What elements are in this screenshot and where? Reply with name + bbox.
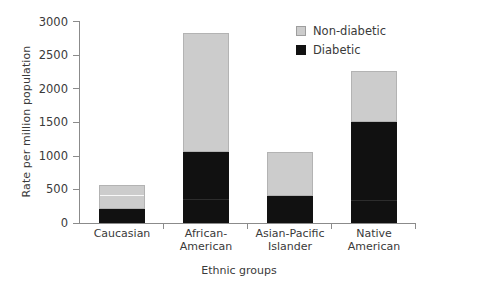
y-tick-label-2500: 2500	[39, 48, 68, 62]
legend-label-diabetic: Diabetic	[313, 43, 361, 57]
bar-segment-non-diabetic[interactable]	[351, 71, 397, 122]
legend-swatch-icon-non-diabetic	[296, 26, 306, 36]
y-tick-label-2000: 2000	[39, 82, 68, 96]
y-tick-label-3000: 3000	[39, 15, 68, 29]
legend-item-diabetic[interactable]: Diabetic	[296, 42, 386, 58]
label-line: Native American	[331, 228, 417, 253]
y-tick-label-1000: 1000	[39, 149, 68, 163]
bar-segment-diabetic[interactable]	[183, 152, 229, 223]
legend-swatch-icon-diabetic	[296, 45, 306, 55]
bar-segment-diabetic[interactable]	[99, 209, 145, 223]
bar-native-american[interactable]	[351, 71, 397, 223]
bar-asian-pacific-islander[interactable]	[267, 152, 313, 223]
bar-segment-non-diabetic[interactable]	[99, 185, 145, 209]
x-axis-title: Ethnic groups	[0, 264, 478, 277]
bar-african-american[interactable]	[183, 33, 229, 223]
bar-segment-non-diabetic[interactable]	[267, 152, 313, 197]
y-tick-label-500: 500	[46, 182, 68, 196]
legend-label-non-diabetic: Non-diabetic	[313, 24, 386, 38]
x-category-label-african-american: African-American	[163, 228, 249, 253]
y-axis-line	[79, 21, 80, 224]
label-line: Islander	[247, 241, 333, 254]
label-line: African-American	[163, 228, 249, 253]
legend-item-non-diabetic[interactable]: Non-diabetic	[296, 23, 386, 39]
bar-segment-diabetic[interactable]	[267, 196, 313, 223]
x-category-label-caucasian: Caucasian	[79, 228, 165, 241]
label-line: Caucasian	[79, 228, 165, 241]
chart-legend: Non-diabetic Diabetic	[296, 23, 386, 61]
chart-container: Rate per million population 3000 2500 20…	[0, 0, 478, 289]
segment-rule	[100, 195, 144, 196]
bar-segment-non-diabetic[interactable]	[183, 33, 229, 152]
segment-rule	[351, 200, 397, 201]
y-tick-label-0: 0	[61, 216, 68, 230]
y-axis-title: Rate per million population	[20, 22, 33, 222]
y-tick-label-1500: 1500	[39, 115, 68, 129]
bar-segment-diabetic[interactable]	[351, 122, 397, 223]
label-line: Asian-Pacific	[247, 228, 333, 241]
x-category-label-native-american: Native American	[331, 228, 417, 253]
x-category-label-asian-pacific-islander: Asian-Pacific Islander	[247, 228, 333, 253]
segment-rule	[183, 199, 229, 200]
bar-caucasian[interactable]	[99, 185, 145, 224]
